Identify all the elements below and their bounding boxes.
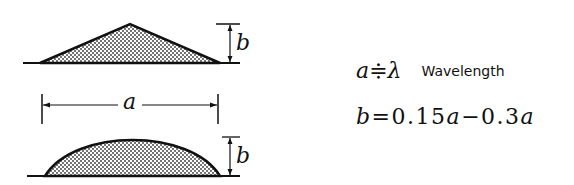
formula-a: a <box>356 58 369 83</box>
formula-eq-coef: =0.15 <box>372 104 447 129</box>
formula-a2: a <box>521 104 536 129</box>
sinusoidal-ripple <box>27 140 240 176</box>
ripple-diagram <box>0 0 574 185</box>
formula-minus-coef: −0.3 <box>461 104 520 129</box>
triangular-ripple <box>23 24 240 63</box>
formula-b: b <box>356 104 372 129</box>
wavelength-formula: a≑λWavelength <box>356 58 505 83</box>
wavelength-label: a <box>123 89 136 114</box>
wavelength-word: Wavelength <box>422 63 505 79</box>
approx-equal-symbol: ≑ <box>369 58 387 83</box>
formula-a1: a <box>447 104 462 129</box>
height-label-top: b <box>236 30 250 55</box>
height-label-bottom: b <box>236 143 250 168</box>
formula-lambda: λ <box>388 58 402 83</box>
height-formula: b=0.15a−0.3a <box>356 104 535 129</box>
